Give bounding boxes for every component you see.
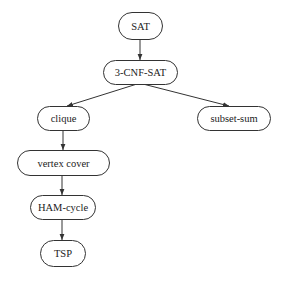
- node-label: vertex cover: [37, 158, 90, 169]
- edge-3cnfsat-to-subsetsum: [143, 84, 229, 106]
- reduction-diagram: SAT3-CNF-SATcliquesubset-sumvertex cover…: [0, 0, 282, 282]
- node-label: subset-sum: [210, 113, 257, 124]
- node-clique: clique: [38, 107, 90, 131]
- node-label: HAM-cycle: [38, 202, 88, 213]
- node-label: 3-CNF-SAT: [115, 67, 167, 78]
- node-label: SAT: [131, 21, 150, 32]
- node-vertexcover: vertex cover: [18, 151, 110, 176]
- node-label: clique: [51, 113, 77, 124]
- node-hamcycle: HAM-cycle: [31, 196, 96, 220]
- node-3cnfsat: 3-CNF-SAT: [104, 61, 178, 85]
- edge-3cnfsat-to-clique: [67, 84, 137, 106]
- node-subsetsum: subset-sum: [198, 107, 271, 131]
- node-sat: SAT: [119, 13, 163, 40]
- node-label: TSP: [54, 248, 72, 259]
- node-tsp: TSP: [41, 241, 86, 267]
- nodes-layer: SAT3-CNF-SATcliquesubset-sumvertex cover…: [18, 13, 271, 267]
